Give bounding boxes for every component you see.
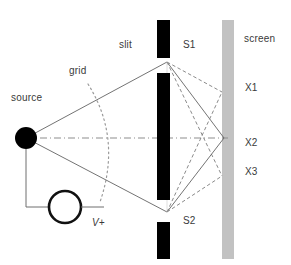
ray-s1-to-x3 bbox=[167, 62, 222, 176]
label-x2: X2 bbox=[245, 138, 258, 148]
label-grid: grid bbox=[69, 66, 86, 76]
ray-s1-to-x1 bbox=[167, 62, 222, 92]
voltage-supply-circle bbox=[49, 191, 81, 223]
grid-arc bbox=[88, 84, 109, 202]
label-x3: X3 bbox=[245, 167, 258, 177]
label-s2: S2 bbox=[183, 216, 196, 226]
barrier-bottom bbox=[157, 222, 170, 259]
label-voltage: V+ bbox=[92, 218, 105, 228]
ray-source-to-s1 bbox=[26, 62, 167, 138]
barrier-middle bbox=[157, 73, 170, 200]
diagram-canvas: source grid slit S1 S2 screen X1 X2 X3 V… bbox=[0, 0, 291, 265]
barrier-top bbox=[157, 20, 170, 58]
wire-source-to-supply bbox=[26, 149, 49, 207]
label-screen: screen bbox=[244, 34, 275, 44]
label-slit: slit bbox=[119, 40, 132, 50]
screen-bar bbox=[222, 20, 234, 259]
source-dot bbox=[15, 127, 37, 149]
label-source: source bbox=[11, 93, 42, 103]
label-s1: S1 bbox=[183, 40, 196, 50]
ray-s1-to-x2 bbox=[167, 62, 224, 138]
label-x1: X1 bbox=[245, 83, 258, 93]
ray-source-to-s2 bbox=[26, 138, 167, 212]
